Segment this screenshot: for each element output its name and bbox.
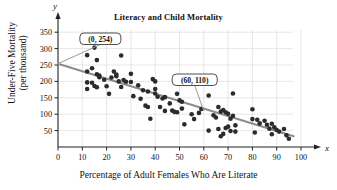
- svg-text:60: 60: [200, 153, 208, 162]
- svg-text:20: 20: [103, 153, 111, 162]
- svg-text:300: 300: [40, 45, 52, 54]
- svg-text:50: 50: [44, 127, 52, 136]
- svg-text:0: 0: [56, 153, 60, 162]
- svg-text:30: 30: [127, 153, 135, 162]
- svg-text:y: y: [52, 1, 57, 11]
- svg-text:250: 250: [40, 61, 52, 70]
- svg-text:200: 200: [40, 77, 52, 86]
- svg-text:x: x: [324, 143, 329, 153]
- svg-text:(0, 254): (0, 254): [88, 35, 113, 44]
- svg-text:50: 50: [175, 153, 183, 162]
- svg-text:(60, 110): (60, 110): [181, 76, 209, 85]
- svg-text:80: 80: [248, 153, 256, 162]
- svg-text:90: 90: [273, 153, 281, 162]
- svg-text:100: 100: [40, 110, 52, 119]
- svg-text:100: 100: [295, 153, 307, 162]
- svg-text:150: 150: [40, 94, 52, 103]
- scatter-plot: 0102030405060708090100501001502002503003…: [0, 0, 337, 190]
- svg-text:10: 10: [78, 153, 86, 162]
- svg-text:350: 350: [40, 28, 52, 37]
- svg-text:40: 40: [151, 153, 159, 162]
- svg-text:70: 70: [224, 153, 232, 162]
